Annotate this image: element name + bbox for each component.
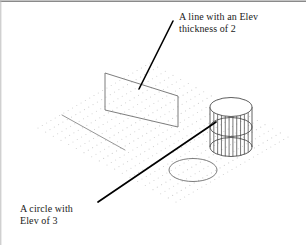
flat-circle-on-grid: [169, 159, 217, 182]
flat-line-on-grid: [62, 115, 125, 150]
extruded-line-plane: [105, 73, 178, 127]
leader-to-cylinder: [98, 122, 216, 202]
figure-canvas: A line with an Elev thickness of 2 A cir…: [0, 0, 306, 245]
circle-label-line-2: Elev of 3: [20, 215, 73, 227]
circle-label-line-1: A circle with: [20, 203, 73, 214]
leader-to-extruded-plane: [139, 21, 173, 89]
cylinder-top-ellipse: [210, 98, 252, 117]
isometric-dot-grid: [37, 62, 288, 202]
cylinder-bottom-ellipse: [210, 138, 252, 157]
a-circle-with-elev-of-3: A circle with Elev of 3: [20, 203, 73, 226]
a-line-with-an-elev-thickness-of-2: A line with an Elev thickness of 2: [179, 11, 258, 34]
thickness-label-line-1: A line with an Elev: [179, 11, 258, 22]
thickness-label-line-2: thickness of 2: [179, 23, 258, 35]
